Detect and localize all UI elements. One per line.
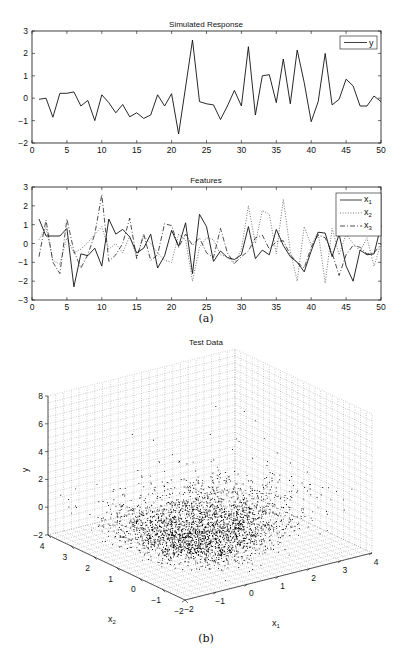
plot1-ticks: 05101520253035404550−2−10123 xyxy=(18,26,386,155)
x1-tick-label: 4 xyxy=(374,557,379,567)
grid-line xyxy=(235,419,372,484)
x-tick-label: 40 xyxy=(306,145,316,155)
grid-line xyxy=(48,488,235,535)
y-tick-label: −1 xyxy=(18,116,28,126)
x-tick-label: 45 xyxy=(341,302,351,312)
plot-simulated-response: Simulated Response 05101520253035404550−… xyxy=(18,20,386,155)
x-tick-label: 5 xyxy=(65,145,70,155)
y-tick-label: 3 xyxy=(23,182,28,192)
plot-features: Features 05101520253035404550−3−2−10123 … xyxy=(18,176,386,312)
y-tick-label: 1 xyxy=(23,220,28,230)
x-tick-label: 25 xyxy=(202,145,212,155)
grid-line xyxy=(168,545,355,592)
x-tick-label: 15 xyxy=(132,145,142,155)
grid-line xyxy=(48,460,235,507)
z-tick-label: 4 xyxy=(38,447,43,457)
plot2-series-x3 xyxy=(39,195,381,276)
z-tick-label: 2 xyxy=(38,474,43,484)
x2-tick xyxy=(185,600,188,603)
grid-line xyxy=(145,534,332,581)
plot-test-data-3d: Test Data −202468−2−101234−2−101234 y x2… xyxy=(20,338,379,629)
yaxis-label-x2: x2 xyxy=(108,614,117,625)
caption-a: (a) xyxy=(198,312,213,325)
x-tick-label: 45 xyxy=(341,145,351,155)
xaxis-label-x1: x1 xyxy=(272,618,281,629)
plot2-series-x2 xyxy=(39,199,381,283)
x1-tick xyxy=(182,600,185,602)
x-tick-label: 0 xyxy=(30,302,35,312)
x-tick-label: 5 xyxy=(65,302,70,312)
y-tick-label: 2 xyxy=(23,48,28,58)
plot3-grid xyxy=(48,349,372,600)
grid-line xyxy=(235,446,372,511)
grid-line xyxy=(174,548,361,595)
y-tick-label: −2 xyxy=(18,276,28,286)
x1-tick-label: 0 xyxy=(249,588,254,598)
plot1-series-y xyxy=(39,40,381,134)
plot2-series-x1 xyxy=(39,214,381,286)
caption-b: (b) xyxy=(198,632,214,645)
x-tick-label: 50 xyxy=(376,145,386,155)
z-tick-label: −2 xyxy=(33,530,43,540)
x-tick-label: 50 xyxy=(376,302,386,312)
plot2-legend: x1 x2 x3 xyxy=(336,193,381,236)
z-tick-label: 8 xyxy=(38,391,43,401)
x-tick-label: 30 xyxy=(237,302,247,312)
x-tick-label: 15 xyxy=(132,302,142,312)
x-tick-label: 20 xyxy=(167,145,177,155)
x-tick-label: 35 xyxy=(272,145,282,155)
plot1-legend: y xyxy=(340,36,377,49)
plot1-title: Simulated Response xyxy=(169,20,243,29)
x2-tick-label: 2 xyxy=(85,563,90,573)
grid-line xyxy=(71,499,258,546)
x1-tick-label: 3 xyxy=(342,565,347,575)
z-tick-label: 0 xyxy=(38,502,43,512)
zaxis-label-y: y xyxy=(20,467,30,472)
figure-canvas: Simulated Response 05101520253035404550−… xyxy=(0,0,407,656)
plot1-axes-box xyxy=(32,31,381,143)
x-tick-label: 0 xyxy=(30,145,35,155)
x1-tick-label: −2 xyxy=(184,604,194,614)
y-tick-label: −3 xyxy=(18,295,28,305)
y-tick-label: 1 xyxy=(23,71,28,81)
x1-tick-label: 2 xyxy=(311,573,316,583)
x-tick-label: 25 xyxy=(202,302,212,312)
x2-tick-label: 1 xyxy=(108,574,113,584)
x-tick-label: 20 xyxy=(167,302,177,312)
plot2-legend-box xyxy=(336,193,381,236)
y-tick-label: 0 xyxy=(23,239,28,249)
grid-line xyxy=(111,518,298,565)
x2-tick-label: −2 xyxy=(174,606,184,616)
x-tick-label: 40 xyxy=(306,302,316,312)
grid-line xyxy=(99,512,286,559)
x-tick-label: 35 xyxy=(272,302,282,312)
grid-line xyxy=(77,502,264,549)
y-tick-label: −2 xyxy=(18,138,28,148)
grid-line xyxy=(235,384,372,449)
x1-tick-label: −1 xyxy=(215,596,225,606)
y-tick-label: 0 xyxy=(23,93,28,103)
x-tick-label: 10 xyxy=(97,145,107,155)
x2-tick-label: 4 xyxy=(40,541,45,551)
x2-tick-label: −1 xyxy=(151,595,161,605)
x2-tick-label: 0 xyxy=(131,584,136,594)
y-tick-label: −1 xyxy=(18,257,28,267)
grid-line xyxy=(179,550,366,597)
plot2-ticks: 05101520253035404550−3−2−10123 xyxy=(18,182,386,312)
x2-tick-label: 3 xyxy=(62,552,67,562)
grid-line xyxy=(48,481,235,528)
grid-line xyxy=(48,405,235,452)
x-tick-label: 30 xyxy=(237,145,247,155)
x-tick-label: 10 xyxy=(97,302,107,312)
grid-line xyxy=(48,391,235,438)
grid-line xyxy=(48,398,235,445)
y-tick-label: 3 xyxy=(23,26,28,36)
plot3-axes: −202468−2−101234−2−101234 xyxy=(33,391,378,616)
y-tick-label: 2 xyxy=(23,201,28,211)
plot3-title: Test Data xyxy=(189,338,223,347)
x1-tick-label: 1 xyxy=(280,581,285,591)
plot2-title: Features xyxy=(190,176,222,185)
z-tick-label: 6 xyxy=(38,419,43,429)
legend-label-y: y xyxy=(369,38,374,48)
